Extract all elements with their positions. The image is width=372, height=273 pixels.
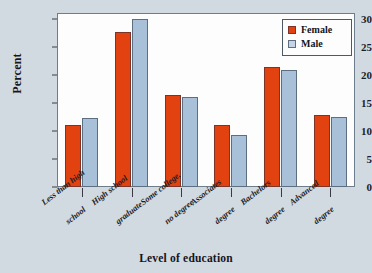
y-axis-title: Percent — [10, 34, 25, 114]
x-tick-mark — [330, 188, 331, 197]
x-category-label: degree — [312, 205, 335, 226]
x-tick-mark — [231, 188, 232, 197]
x-tick-mark — [181, 188, 182, 197]
x-tick-mark — [281, 188, 282, 197]
legend-swatch-icon — [288, 26, 296, 34]
bar-male-2 — [182, 97, 198, 187]
x-category-label: school — [64, 205, 87, 226]
x-category-label: degree — [213, 205, 236, 226]
bar-male-5 — [331, 117, 347, 187]
legend-label: Female — [301, 25, 332, 35]
bar-male-1 — [132, 19, 148, 187]
x-tick-mark — [82, 188, 83, 197]
bar-male-3 — [231, 135, 247, 187]
bar-female-1 — [115, 32, 131, 187]
legend-item: Male — [288, 37, 347, 51]
legend-swatch-icon — [288, 40, 296, 48]
bar-female-4 — [264, 67, 280, 187]
legend-label: Male — [301, 39, 323, 49]
bar-chart: 051015202530 Percent Less than highschoo… — [0, 0, 372, 273]
chart-legend: FemaleMale — [282, 19, 352, 56]
bar-male-4 — [281, 70, 297, 187]
x-axis-title: Level of education — [0, 252, 372, 264]
x-category-label: degree — [263, 205, 286, 226]
bar-female-5 — [314, 115, 330, 187]
legend-item: Female — [288, 23, 347, 37]
bar-male-0 — [82, 118, 98, 187]
x-category-label: graduate — [114, 200, 144, 226]
x-tick-mark — [132, 188, 133, 197]
